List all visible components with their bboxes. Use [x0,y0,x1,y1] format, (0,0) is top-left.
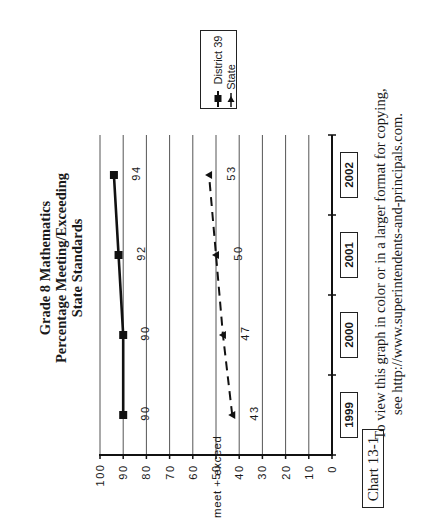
square-marker-icon [115,251,123,259]
footnote: To view this graph in color or in a larg… [372,88,406,439]
category-label-box: 2001 [340,232,358,278]
y-tick-label: 90 [117,464,129,479]
data-label: 92 [135,245,147,260]
data-label: 50 [232,245,244,260]
category-label: 1999 [343,402,355,428]
legend-label-district: District 39 [212,36,224,85]
chart-id-box: Chart 13-1 [362,429,384,508]
footnote-line-1: To view this graph in color or in a larg… [372,88,389,439]
category-label-box: 2002 [340,152,358,198]
category-label: 2000 [343,322,355,348]
y-tick-label: 30 [256,464,268,479]
square-marker-icon [119,411,127,419]
legend-label-state: State [225,64,237,90]
series-lines [114,175,232,415]
category-label: 2002 [343,162,355,188]
category-label-box: 2000 [340,312,358,358]
series-line-0 [114,175,123,415]
data-label: 43 [248,405,260,420]
y-tick-label: 0 [326,465,338,473]
y-tick-label: 10 [303,464,315,479]
y-tick-label: 80 [140,464,152,479]
triangle-marker-icon [205,171,212,179]
legend-square-icon [215,95,222,102]
category-label: 2001 [343,242,355,268]
square-marker-icon [119,331,127,339]
series-line-1 [209,175,232,415]
legend-triangle-icon [228,96,235,102]
data-label: 94 [130,165,142,180]
gridlines [100,135,309,455]
y-axis-label: % meet + exceed [211,436,223,519]
data-label: 47 [239,325,251,340]
y-tick-label: 70 [164,464,176,479]
y-tick-label: 40 [233,464,245,479]
category-label-box: 1999 [340,392,358,438]
y-tick-label: 20 [280,464,292,479]
axes [99,135,336,459]
data-label: 90 [139,405,151,420]
data-label: 90 [139,325,151,340]
square-marker-icon [110,171,118,179]
data-label: 53 [225,165,237,180]
chart-id-label: Chart 13-1 [365,436,382,501]
y-tick-label: 100 [94,464,106,487]
chart-page: Grade 8 Mathematics Percentage Meeting/E… [0,0,425,519]
footnote-line-2: see http://www.superintendents-and-princ… [389,88,406,439]
y-tick-label: 60 [187,464,199,479]
legend: District 39 State [200,30,237,109]
